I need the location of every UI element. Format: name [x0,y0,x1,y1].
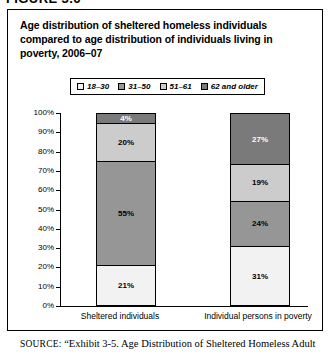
bar-segment-value: 27% [252,135,268,144]
legend-swatch-icon [118,83,125,90]
y-axis-line [60,113,61,307]
bar-segment-value: 55% [118,209,134,218]
chart-legend: 18–3031–5051–6162 and older [70,78,265,95]
legend-item-18-30: 18–30 [77,82,109,91]
legend-label: 51–61 [170,82,192,91]
source-note: SOURCE: “Exhibit 3-5. Age Distribution o… [20,337,325,351]
source-kicker: SOURCE: [20,339,62,349]
y-axis-tick-label: 70% [38,166,54,175]
y-axis-tick [56,248,60,249]
y-axis-tick [56,229,60,230]
y-axis-tick [56,267,60,268]
figure-panel: Age distribution of sheltered homeless i… [7,9,323,331]
figure-number: FIGURE 3.6 [6,0,81,6]
bar-segment-value: 21% [118,281,134,290]
bar-segment-51-61: 19% [231,165,289,201]
legend-label: 31–50 [128,82,150,91]
bar-segment-value: 20% [118,138,134,147]
y-axis-tick-label: 30% [38,243,54,252]
bar-sheltered-individuals: 4%20%55%21% [96,113,156,306]
legend-item-62-and-older: 62 and older [201,82,258,91]
bar-segment-62-and-older: 4% [97,114,155,124]
bar-segment-value: 4% [120,114,132,123]
y-axis-tick-label: 80% [38,147,54,156]
y-axis-tick [56,210,60,211]
bar-segment-18-30: 31% [231,247,289,305]
x-axis-label-sheltered-individuals: Sheltered individuals [46,311,194,321]
legend-swatch-icon [77,83,84,90]
legend-swatch-icon [160,83,167,90]
bar-segment-31-50: 55% [97,162,155,266]
y-axis-tick [56,306,60,307]
y-axis-tick-label: 40% [38,224,54,233]
bar-segment-18-30: 21% [97,266,155,305]
y-axis-tick-label: 60% [38,185,54,194]
y-axis-tick [56,113,60,114]
x-axis-label-individual-persons-in-poverty: Individual persons in poverty [184,311,331,321]
plot-area: 0%10%20%30%40%50%60%70%80%90%100% 4%20%5… [60,113,308,307]
y-axis-tick-label: 50% [38,205,54,214]
y-axis-tick-label: 90% [38,127,54,136]
legend-item-51-61: 51–61 [160,82,192,91]
legend-item-31-50: 31–50 [118,82,150,91]
bar-segment-31-50: 24% [231,202,289,248]
y-axis-tick-label: 100% [34,108,54,117]
y-axis-tick-label: 20% [38,262,54,271]
legend-swatch-icon [201,83,208,90]
y-axis-tick [56,132,60,133]
source-text: “Exhibit 3-5. Age Distribution of Shelte… [64,338,315,349]
y-axis-tick [56,190,60,191]
y-axis-tick-label: 0% [42,301,54,310]
legend-label: 62 and older [211,82,258,91]
legend-label: 18–30 [87,82,109,91]
bar-segment-value: 19% [252,178,268,187]
bar-segment-value: 24% [252,219,268,228]
figure-title: Age distribution of sheltered homeless i… [20,18,312,60]
bar-segment-value: 31% [252,272,268,281]
y-axis-tick [56,287,60,288]
bar-individual-persons-in-poverty: 27%19%24%31% [230,113,290,306]
bar-segment-62-and-older: 27% [231,114,289,165]
y-axis-tick-label: 10% [38,282,54,291]
y-axis-tick [56,152,60,153]
bar-segment-51-61: 20% [97,124,155,162]
y-axis-tick [56,171,60,172]
x-axis-line [60,306,308,307]
